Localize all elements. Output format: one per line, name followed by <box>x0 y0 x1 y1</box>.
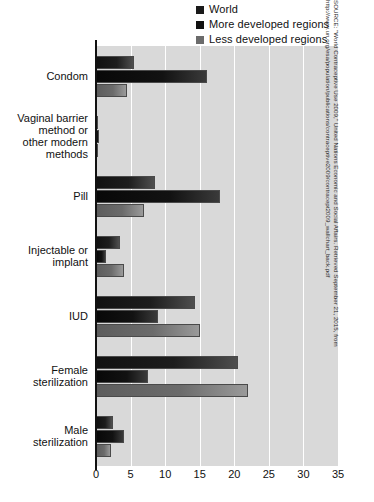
y-axis-category-label: Condom <box>0 70 88 82</box>
y-axis-category-labels: CondomVaginal barriermethod orother mode… <box>0 46 92 466</box>
bar <box>96 430 124 443</box>
bar <box>96 296 195 309</box>
bar-group <box>96 106 338 166</box>
bar <box>96 84 127 97</box>
bar-group <box>96 286 338 346</box>
x-axis-tick-label: 20 <box>228 468 240 480</box>
bar <box>96 310 158 323</box>
bar <box>96 444 111 457</box>
bar-group <box>96 166 338 226</box>
category-label-line: methods <box>0 148 88 160</box>
x-axis-tick-label: 10 <box>159 468 171 480</box>
category-label-line: Pill <box>0 190 88 202</box>
y-axis-category-label: Pill <box>0 190 88 202</box>
bar-group <box>96 406 338 466</box>
y-axis-category-label: Vaginal barriermethod orother modernmeth… <box>0 112 88 160</box>
bar <box>96 250 106 263</box>
legend-swatch-world <box>196 6 204 14</box>
x-axis-tick-label: 0 <box>93 468 99 480</box>
category-label-line: sterilization <box>0 436 88 448</box>
bar <box>96 236 120 249</box>
bar-group <box>96 226 338 286</box>
category-label-line: Vaginal barrier <box>0 112 88 124</box>
legend-label-world: World <box>209 3 238 16</box>
category-label-line: Female <box>0 364 88 376</box>
legend-swatch-more-developed-regions <box>196 21 204 29</box>
source-note: SOURCE: "World Contraceptive Use 2009," … <box>310 0 340 502</box>
bar <box>96 324 200 337</box>
y-axis-line <box>95 40 97 470</box>
y-axis-category-label: Femalesterilization <box>0 364 88 388</box>
bar <box>96 70 207 83</box>
bar <box>96 264 124 277</box>
category-label-line: method or <box>0 124 88 136</box>
bar <box>96 190 220 203</box>
bar <box>96 384 248 397</box>
category-label-line: Injectable or <box>0 244 88 256</box>
category-label-line: Condom <box>0 70 88 82</box>
bar-group <box>96 346 338 406</box>
bar-group <box>96 46 338 106</box>
x-axis-tick-label: 25 <box>263 468 275 480</box>
contraceptive-use-bar-chart: World More developed regions Less develo… <box>0 0 374 502</box>
category-label-line: IUD <box>0 310 88 322</box>
x-axis-tick-label: 30 <box>297 468 309 480</box>
legend-swatch-less-developed-regions <box>196 36 204 44</box>
category-label-line: Male <box>0 424 88 436</box>
bar <box>96 56 134 69</box>
category-label-line: implant <box>0 256 88 268</box>
bar <box>96 356 238 369</box>
y-axis-category-label: IUD <box>0 310 88 322</box>
plot-area <box>96 46 338 466</box>
x-axis-tick-label: 15 <box>194 468 206 480</box>
x-axis-tick-labels: 05101520253035 <box>96 468 338 484</box>
bar <box>96 416 113 429</box>
category-label-line: other modern <box>0 136 88 148</box>
bar <box>96 370 148 383</box>
bar <box>96 176 155 189</box>
bar <box>96 204 144 217</box>
y-axis-category-label: Malesterilization <box>0 424 88 448</box>
y-axis-category-label: Injectable orimplant <box>0 244 88 268</box>
x-axis-tick-label: 5 <box>128 468 134 480</box>
category-label-line: sterilization <box>0 376 88 388</box>
